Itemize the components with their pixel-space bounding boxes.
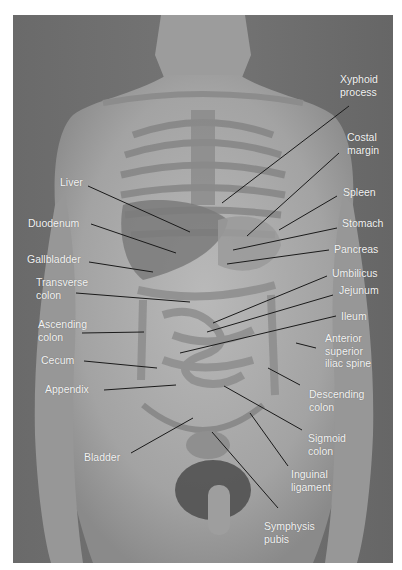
leader-xyphoid-process [222, 106, 349, 203]
label-appendix: Appendix [45, 383, 89, 396]
label-stomach: Stomach [342, 217, 383, 230]
label-duodenum: Duodenum [28, 217, 79, 230]
leader-anterior-superior-iliac-spine [296, 343, 316, 348]
leader-bladder [131, 418, 193, 453]
leader-duodenum [91, 224, 176, 253]
leader-stomach [233, 228, 337, 250]
label-umbilicus: Umbilicus [332, 267, 378, 280]
label-symphysis-pubis: Symphysis pubis [264, 520, 315, 545]
leader-appendix [104, 385, 176, 390]
leader-jejunum [207, 295, 333, 332]
label-cecum: Cecum [41, 354, 74, 367]
label-spleen: Spleen [343, 186, 376, 199]
leader-ascending-colon [82, 332, 144, 333]
leader-umbilicus [213, 276, 327, 323]
label-sigmoid-colon: Sigmoid colon [308, 432, 346, 457]
label-jejunum: Jejunum [339, 284, 379, 297]
leader-descending-colon [268, 368, 300, 385]
label-pancreas: Pancreas [334, 243, 378, 256]
leader-gallbladder [89, 262, 153, 272]
label-costal-margin: Costal margin [347, 131, 379, 156]
leader-sigmoid-colon [224, 386, 302, 430]
leader-costal-margin [247, 153, 339, 236]
leader-symphysis-pubis [212, 432, 278, 508]
label-inguinal-ligament: Inguinal ligament [291, 468, 331, 493]
leader-transverse-colon [76, 293, 190, 302]
label-descending-colon: Descending colon [309, 388, 364, 413]
label-ileum: Ileum [341, 310, 367, 323]
label-ascending-colon: Ascending colon [38, 318, 87, 343]
label-liver: Liver [60, 176, 83, 189]
label-bladder: Bladder [84, 451, 120, 464]
leader-liver [88, 186, 190, 232]
label-anterior-superior-iliac-spine: Anterior superior iliac spine [325, 332, 371, 370]
leader-pancreas [227, 250, 329, 264]
label-transverse-colon: Transverse colon [36, 276, 88, 301]
label-xyphoid-process: Xyphoid process [340, 73, 378, 98]
label-gallbladder: Gallbladder [27, 253, 81, 266]
leader-cecum [84, 361, 157, 368]
leader-inguinal-ligament [250, 413, 288, 466]
leader-spleen [279, 196, 337, 230]
